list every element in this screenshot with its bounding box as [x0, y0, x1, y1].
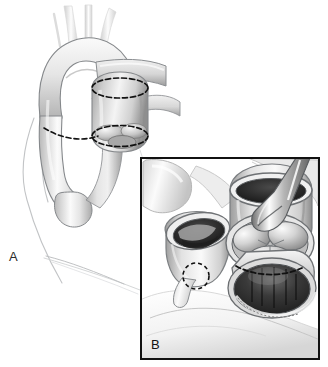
left-common-carotid-artery: [85, 5, 92, 41]
panel-b-illustration: [140, 157, 320, 360]
pulmonary-root-opened: [226, 164, 316, 318]
aortic-root: [55, 192, 93, 227]
panel-b-frame: B: [140, 157, 320, 360]
panel-label-a: A: [9, 250, 18, 263]
brachiocephalic-trunk: [64, 6, 78, 45]
pulmonary-trunk: [92, 72, 180, 152]
panel-label-b: B: [151, 338, 160, 351]
figure-root: A: [0, 0, 328, 367]
